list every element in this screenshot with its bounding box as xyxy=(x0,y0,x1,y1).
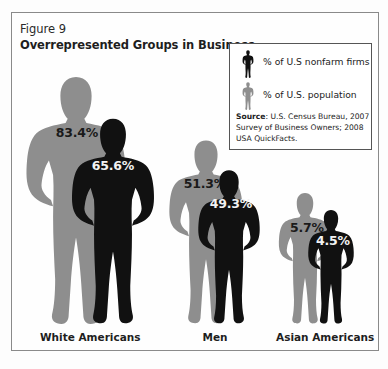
legend-item-population: % of U.S. population xyxy=(263,89,357,100)
legend: % of U.S nonfarm firms % of U.S. populat… xyxy=(229,43,372,150)
chart-title: Overrepresented Groups in Business xyxy=(20,38,255,52)
white-americans-firms-value: 65.6% xyxy=(88,158,138,173)
category-label-asian-americans: Asian Americans xyxy=(276,331,368,343)
white-americans-firms-silhouette xyxy=(67,117,159,324)
legend-item-firms: % of U.S nonfarm firms xyxy=(263,56,370,67)
men-firms-value: 49.3% xyxy=(206,196,256,211)
category-label-white-americans: White Americans xyxy=(40,331,140,343)
source-label: Source xyxy=(236,112,266,121)
men-firms-silhouette xyxy=(193,169,265,324)
asian-americans-firms-value: 4.5% xyxy=(313,233,353,248)
person-black-icon xyxy=(242,50,254,78)
asian-americans-firms-silhouette xyxy=(304,209,358,324)
category-label-men: Men xyxy=(195,331,235,343)
source-note: Source: U.S. Census Bureau, 2007 Survey … xyxy=(236,111,370,144)
person-gray-icon xyxy=(242,82,254,110)
figure-number: Figure 9 xyxy=(20,22,66,36)
